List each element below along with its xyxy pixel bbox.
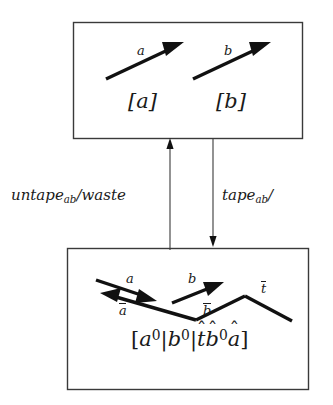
state-close-bracket: ] (240, 327, 248, 351)
t-bar-glyph: t (261, 282, 266, 295)
state-term5-hatted: ˆa (228, 329, 241, 350)
lower-arrow-t-bar-label: t (261, 282, 266, 295)
term5-hat-mark: ˆ (230, 320, 240, 339)
upper-arrow-b-label: b (224, 44, 232, 57)
tape-transition-label: tapeab/ (222, 188, 273, 205)
state-term4-superscript: 0 (219, 327, 228, 343)
upper-state-box (74, 23, 303, 139)
lower-arrow-b-label: b (188, 272, 196, 285)
lower-arrow-a-bar (100, 288, 196, 320)
untape-label-base: untape (11, 186, 64, 204)
diagram-canvas: a b [a] [b] untapeab/waste tapeab/ a a b… (0, 0, 333, 405)
untape-transition-label: untapeab/waste (11, 188, 126, 205)
tape-label-subscript: ab (255, 194, 268, 205)
upper-state-label-a: [a] (128, 91, 157, 112)
tape-transition-arrow (209, 139, 216, 247)
a-bar-glyph: a (119, 304, 127, 317)
untape-label-subscript: ab (64, 194, 77, 205)
state-term1-base: a (139, 327, 152, 351)
upper-arrow-a-label: a (137, 44, 145, 57)
term4-hat-mark: ˆ (208, 320, 218, 339)
tape-label-base: tape (222, 186, 255, 204)
state-open-bracket: [ (131, 327, 139, 351)
untape-transition-arrow (166, 138, 173, 250)
state-term1-superscript: 0 (152, 327, 161, 343)
lower-arrow-b (172, 282, 224, 303)
state-term3-hatted: ˆt (197, 329, 205, 350)
lower-arrow-b-bar-label: b (203, 304, 211, 317)
state-term2-superscript: 0 (181, 327, 190, 343)
upper-state-label-b: [b] (216, 91, 246, 112)
state-term4-hatted: ˆb (205, 329, 218, 350)
lower-arrow-t-bar (245, 296, 292, 321)
state-term2-base: b (168, 327, 181, 351)
tape-label-tail: / (268, 186, 273, 204)
state-separator-1: | (161, 327, 168, 351)
lower-state-label: [a0|b0|ˆtˆb0ˆa] (131, 329, 248, 350)
lower-arrow-a-label: a (126, 272, 134, 285)
untape-label-tail: /waste (76, 186, 125, 204)
upper-arrow-a (106, 42, 184, 79)
b-bar-glyph: b (203, 304, 211, 317)
lower-arrow-a-bar-label: a (119, 304, 127, 317)
